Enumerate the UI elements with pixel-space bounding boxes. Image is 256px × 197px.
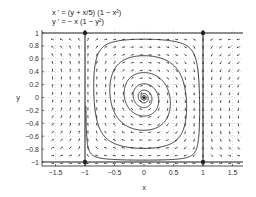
y-tick-label: −0.6 xyxy=(25,133,39,140)
phase-portrait: −1.5−1−0.500.511.510.80.60.40.20−0.2−0.4… xyxy=(0,0,256,197)
x-tick-label: −1.5 xyxy=(49,169,63,176)
x-tick-label: −1 xyxy=(81,169,89,176)
x-tick-label: 1.5 xyxy=(228,169,238,176)
spiral-trajectory xyxy=(86,39,200,160)
y-tick-label: 0 xyxy=(35,94,39,101)
y-tick-label: 1 xyxy=(35,30,39,37)
x-tick-label: −0.5 xyxy=(108,169,122,176)
y-tick-label: −0.4 xyxy=(25,120,39,127)
y-axis-label: y xyxy=(16,93,20,102)
y-tick-label: 0.2 xyxy=(29,81,39,88)
y-tick-label: 0.8 xyxy=(29,42,39,49)
direction-field-arrows xyxy=(51,38,240,165)
x-axis-label: x xyxy=(142,183,146,192)
y-tick-label: −0.8 xyxy=(25,146,39,153)
y-tick-label: 0.4 xyxy=(29,68,39,75)
x-tick-label: 0 xyxy=(142,169,146,176)
axes: −1.5−1−0.500.511.510.80.60.40.20−0.2−0.4… xyxy=(25,30,243,177)
x-tick-label: 0.5 xyxy=(169,169,179,176)
y-tick-label: 0.6 xyxy=(29,55,39,62)
y-tick-label: −1 xyxy=(31,159,39,166)
y-tick-label: −0.2 xyxy=(25,107,39,114)
x-tick-label: 1 xyxy=(201,169,205,176)
